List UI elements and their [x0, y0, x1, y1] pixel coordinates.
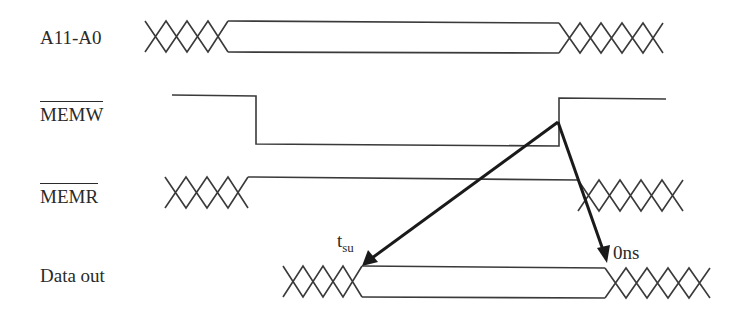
setup-time-subscript: su: [342, 240, 354, 255]
setup-time-label: tsu: [337, 231, 354, 250]
timing-waveforms: [0, 0, 752, 328]
hold-time-arrow: [558, 122, 610, 263]
hold-time-label: 0ns: [613, 243, 639, 262]
signal-label-data-out: Data out: [40, 266, 105, 285]
waveform-data-out: [283, 266, 710, 298]
waveform-address-bus: [145, 21, 663, 53]
signal-label-memw: MEMW: [40, 101, 103, 124]
timing-diagram: A11-A0 MEMW MEMR Data out tsu 0ns: [0, 0, 752, 328]
waveform-memw: [172, 95, 666, 146]
signal-label-address: A11-A0: [40, 28, 102, 47]
waveform-memr: [165, 177, 683, 211]
setup-time-arrow: [362, 122, 558, 266]
signal-label-memr: MEMR: [40, 183, 98, 206]
